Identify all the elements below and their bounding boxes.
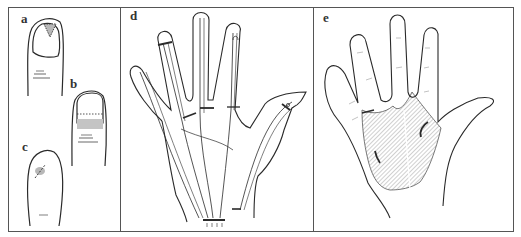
panel-label-b: b xyxy=(70,77,77,90)
hand-infection-figure: a b c d e xyxy=(0,0,521,237)
figure-drawing xyxy=(0,0,521,237)
panel-c-drawing xyxy=(27,151,62,226)
panel-b-drawing xyxy=(72,91,106,166)
panel-a-drawing xyxy=(28,19,64,96)
panel-label-e: e xyxy=(323,11,329,24)
panel-label-c: c xyxy=(22,140,28,153)
panel-d-drawing xyxy=(130,13,306,228)
panel-label-a: a xyxy=(21,12,28,25)
panel-e-drawing xyxy=(325,15,494,218)
panel-label-d: d xyxy=(130,9,137,22)
